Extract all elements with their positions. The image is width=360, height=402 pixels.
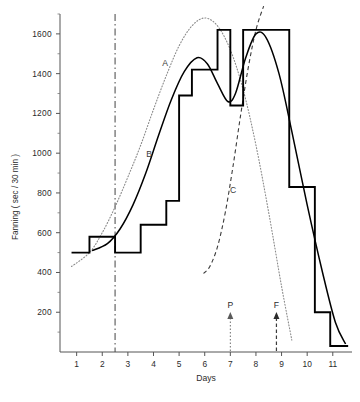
x-tick-label: 5 bbox=[177, 359, 182, 369]
event-marker-layer: PF bbox=[227, 300, 279, 351]
curve-label-c: C bbox=[230, 185, 236, 195]
x-tick-label: 9 bbox=[279, 359, 284, 369]
x-axis-major-ticks bbox=[77, 352, 333, 356]
curve-label-b: B bbox=[146, 149, 152, 159]
x-tick-label: 1 bbox=[74, 359, 79, 369]
x-tick-label: 3 bbox=[126, 359, 131, 369]
curve-a-dotted bbox=[72, 18, 292, 340]
y-tick-label: 400 bbox=[37, 267, 52, 277]
event-marker-p: P bbox=[227, 300, 233, 351]
x-tick-label: 7 bbox=[228, 359, 233, 369]
x-tick-label: 2 bbox=[100, 359, 105, 369]
y-tick-label: 1400 bbox=[32, 69, 52, 79]
fanning-vs-days-chart: 2004006008001000120014001600 Fanning ( s… bbox=[0, 0, 360, 402]
y-axis-title: Fanning ( sec / 30 min ) bbox=[11, 154, 20, 240]
y-axis-group: 2004006008001000120014001600 Fanning ( s… bbox=[11, 14, 60, 352]
x-tick-label: 6 bbox=[202, 359, 207, 369]
x-axis-tick-labels: 1234567891011 bbox=[74, 359, 337, 369]
x-tick-label: 8 bbox=[254, 359, 259, 369]
x-tick-label: 10 bbox=[303, 359, 313, 369]
event-marker-p-label: P bbox=[227, 300, 233, 310]
event-marker-f: F bbox=[273, 300, 279, 351]
x-axis-title: Days bbox=[196, 373, 216, 383]
x-tick-label: 4 bbox=[151, 359, 156, 369]
curve-b-solid bbox=[92, 32, 346, 344]
y-tick-label: 800 bbox=[37, 188, 52, 198]
figure-container: 2004006008001000120014001600 Fanning ( s… bbox=[0, 0, 360, 402]
event-marker-p-arrowhead-icon bbox=[227, 312, 233, 319]
y-tick-label: 1200 bbox=[32, 108, 52, 118]
x-tick-label: 11 bbox=[328, 359, 337, 369]
y-tick-label: 600 bbox=[37, 228, 52, 238]
step-histogram-series bbox=[72, 30, 349, 346]
y-tick-label: 200 bbox=[37, 307, 52, 317]
x-axis-group: 1234567891011 Days bbox=[60, 352, 352, 383]
series-layer bbox=[72, 6, 349, 346]
event-marker-f-arrowhead-icon bbox=[273, 312, 279, 319]
y-tick-label: 1600 bbox=[32, 29, 52, 39]
y-axis-tick-labels: 2004006008001000120014001600 bbox=[32, 29, 52, 317]
curve-label-a: A bbox=[162, 58, 168, 68]
y-tick-label: 1000 bbox=[32, 148, 52, 158]
event-marker-f-label: F bbox=[274, 300, 279, 310]
